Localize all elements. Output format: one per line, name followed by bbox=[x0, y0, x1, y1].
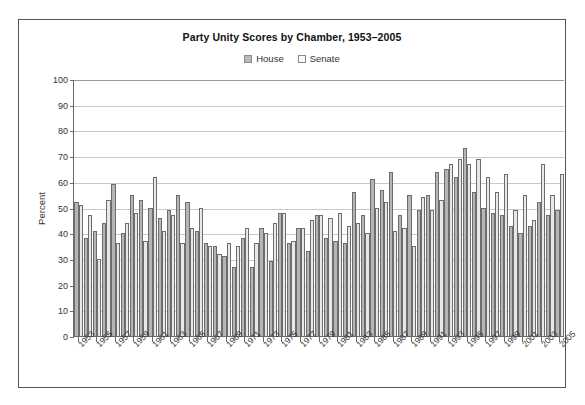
bar-group bbox=[176, 80, 185, 336]
bar-group bbox=[120, 80, 129, 336]
y-tick-label-100: 100 bbox=[53, 75, 68, 85]
bar-group bbox=[416, 80, 425, 336]
chart-title: Party Unity Scores by Chamber, 1953–2005 bbox=[19, 31, 565, 43]
y-tick-label-10: 10 bbox=[58, 306, 68, 316]
bar-senate-1983 bbox=[356, 223, 360, 336]
bar-group bbox=[361, 80, 370, 336]
bar-group bbox=[370, 80, 379, 336]
bar-group bbox=[342, 80, 351, 336]
y-tick-label-30: 30 bbox=[58, 255, 68, 265]
bar-senate-2004 bbox=[550, 195, 554, 336]
bar-group bbox=[287, 80, 296, 336]
bar-group bbox=[472, 80, 481, 336]
y-tick-label-70: 70 bbox=[58, 152, 68, 162]
bar-senate-1995 bbox=[467, 164, 471, 336]
bar-group bbox=[268, 80, 277, 336]
legend-swatch-house-icon bbox=[244, 55, 252, 63]
bar-senate-1988 bbox=[402, 228, 406, 336]
bar-senate-1974 bbox=[273, 223, 277, 336]
bar-group bbox=[352, 80, 361, 336]
bar-group bbox=[222, 80, 231, 336]
bar-group bbox=[379, 80, 388, 336]
bar-group bbox=[259, 80, 268, 336]
bar-senate-2001 bbox=[523, 195, 527, 336]
bar-senate-1954 bbox=[88, 215, 92, 336]
bar-group bbox=[102, 80, 111, 336]
plot-area: 0102030405060708090100 bbox=[73, 80, 564, 337]
bar-senate-1994 bbox=[458, 159, 462, 336]
bar-senate-1964 bbox=[180, 243, 184, 336]
bar-senate-1968 bbox=[217, 254, 221, 336]
bar-senate-1984 bbox=[365, 233, 369, 336]
bar-group bbox=[426, 80, 435, 336]
bar-senate-1958 bbox=[125, 223, 129, 336]
bar-group bbox=[148, 80, 157, 336]
bar-group bbox=[407, 80, 416, 336]
bar-senate-1987 bbox=[393, 231, 397, 336]
bar-group bbox=[453, 80, 462, 336]
bar-group bbox=[537, 80, 546, 336]
bar-senate-1971 bbox=[245, 228, 249, 336]
bar-senate-2003 bbox=[541, 164, 545, 336]
bar-group bbox=[481, 80, 490, 336]
legend-label-senate: Senate bbox=[310, 53, 340, 64]
bar-senate-1960 bbox=[143, 241, 147, 336]
bar-senate-1998 bbox=[495, 192, 499, 336]
bar-senate-1970 bbox=[236, 246, 240, 336]
bar-senate-1973 bbox=[264, 233, 268, 336]
bar-group bbox=[333, 80, 342, 336]
bar-group bbox=[546, 80, 555, 336]
bar-group bbox=[213, 80, 222, 336]
bar-senate-1991 bbox=[430, 210, 434, 336]
chart-legend: House Senate bbox=[19, 53, 565, 64]
bar-group bbox=[500, 80, 509, 336]
bar-group bbox=[296, 80, 305, 336]
bar-group bbox=[83, 80, 92, 336]
bar-senate-1981 bbox=[338, 213, 342, 336]
bar-group bbox=[315, 80, 324, 336]
bar-senate-1985 bbox=[375, 208, 379, 337]
bar-senate-1976 bbox=[291, 241, 295, 336]
bar-senate-1975 bbox=[282, 213, 286, 336]
bar-senate-1977 bbox=[301, 228, 305, 336]
bar-senate-1980 bbox=[328, 218, 332, 336]
y-tick-label-0: 0 bbox=[63, 332, 68, 342]
bar-group bbox=[555, 80, 564, 336]
bar-senate-1997 bbox=[486, 177, 490, 336]
bar-senate-1990 bbox=[421, 197, 425, 336]
bar-senate-1986 bbox=[384, 202, 388, 336]
chart-frame: Party Unity Scores by Chamber, 1953–2005… bbox=[18, 19, 566, 388]
bar-senate-1989 bbox=[412, 246, 416, 336]
bar-senate-1953 bbox=[79, 205, 83, 336]
bar-group bbox=[139, 80, 148, 336]
bar-group bbox=[204, 80, 213, 336]
legend-item-senate: Senate bbox=[298, 53, 340, 64]
bar-senate-1993 bbox=[449, 164, 453, 336]
bar-group bbox=[435, 80, 444, 336]
y-tick-label-80: 80 bbox=[58, 126, 68, 136]
bar-senate-1967 bbox=[208, 246, 212, 336]
bar-senate-1996 bbox=[476, 159, 480, 336]
bar-group bbox=[167, 80, 176, 336]
chart-screenshot: Party Unity Scores by Chamber, 1953–2005… bbox=[0, 0, 585, 405]
bar-senate-1963 bbox=[171, 215, 175, 336]
bar-senate-1978 bbox=[310, 220, 314, 336]
bar-senate-2005 bbox=[560, 174, 564, 336]
bar-group bbox=[111, 80, 120, 336]
bar-group bbox=[463, 80, 472, 336]
bar-group bbox=[231, 80, 240, 336]
bar-senate-2000 bbox=[513, 210, 517, 336]
y-tick-label-90: 90 bbox=[58, 101, 68, 111]
bar-senate-2002 bbox=[532, 220, 536, 336]
y-axis-label: Percent bbox=[25, 80, 58, 337]
bar-group bbox=[490, 80, 499, 336]
y-tick-label-60: 60 bbox=[58, 178, 68, 188]
bar-group bbox=[93, 80, 102, 336]
legend-item-house: House bbox=[244, 53, 283, 64]
bar-senate-1982 bbox=[347, 226, 351, 337]
y-tick-label-50: 50 bbox=[58, 204, 68, 214]
bar-group bbox=[389, 80, 398, 336]
bar-group bbox=[194, 80, 203, 336]
bar-senate-1962 bbox=[162, 231, 166, 336]
bar-group bbox=[278, 80, 287, 336]
